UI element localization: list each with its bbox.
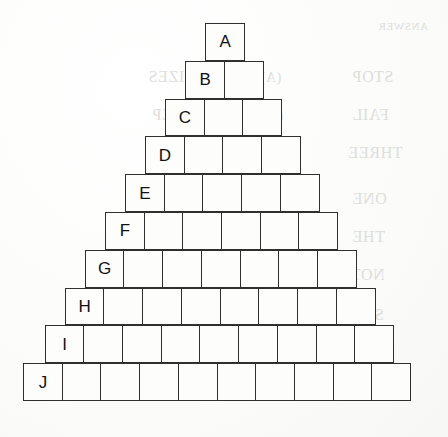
pyramid-block-j-6[interactable] [217,363,257,401]
pyramid-block-e-5[interactable] [280,174,320,212]
pyramid-block-j-9[interactable] [333,363,373,401]
pyramid-block-d-3[interactable] [222,136,262,174]
pyramid-row-h: H [65,288,376,326]
pyramid-row-label: B [199,71,210,88]
pyramid-row-f: F [105,212,339,250]
pyramid-block-d-4[interactable] [261,136,301,174]
pyramid-block-j-2[interactable] [62,363,102,401]
block-pyramid: ABCDEFGHIJ [0,0,448,437]
pyramid-block-h-8[interactable] [336,288,376,326]
pyramid-block-j-10[interactable] [371,363,411,401]
pyramid-row-e: E [125,174,320,212]
pyramid-block-i-8[interactable] [316,325,356,363]
pyramid-block-i-3[interactable] [122,325,162,363]
pyramid-block-g-6[interactable] [278,250,318,288]
pyramid-row-b: B [185,61,264,99]
pyramid-block-h-2[interactable] [103,288,143,326]
pyramid-block-f-4[interactable] [221,212,261,250]
pyramid-block-j-8[interactable] [294,363,334,401]
pyramid-block-g-5[interactable] [240,250,280,288]
pyramid-block-d-labeled[interactable]: D [145,136,185,174]
pyramid-block-i-6[interactable] [238,325,278,363]
pyramid-block-g-2[interactable] [123,250,163,288]
pyramid-block-c-3[interactable] [242,99,282,137]
pyramid-block-a-labeled[interactable]: A [205,23,245,61]
pyramid-block-e-labeled[interactable]: E [125,174,165,212]
pyramid-block-e-3[interactable] [202,174,242,212]
pyramid-block-j-labeled[interactable]: J [23,363,63,401]
pyramid-row-label: E [139,184,150,201]
pyramid-block-h-5[interactable] [220,288,260,326]
pyramid-block-h-labeled[interactable]: H [65,288,105,326]
pyramid-block-j-5[interactable] [178,363,218,401]
pyramid-block-d-2[interactable] [184,136,224,174]
pyramid-block-f-3[interactable] [182,212,222,250]
pyramid-row-label: I [62,335,67,352]
pyramid-block-h-3[interactable] [142,288,182,326]
pyramid-row-label: C [179,108,191,125]
pyramid-row-c: C [165,99,283,137]
pyramid-block-j-7[interactable] [255,363,295,401]
pyramid-block-i-4[interactable] [161,325,201,363]
pyramid-row-i: I [45,325,395,363]
pyramid-block-i-7[interactable] [277,325,317,363]
pyramid-block-f-2[interactable] [144,212,184,250]
pyramid-block-f-5[interactable] [260,212,300,250]
pyramid-block-h-7[interactable] [297,288,337,326]
pyramid-block-f-6[interactable] [298,212,338,250]
pyramid-row-label: F [120,222,130,239]
pyramid-block-b-labeled[interactable]: B [185,61,225,99]
pyramid-block-c-labeled[interactable]: C [165,99,205,137]
pyramid-block-h-6[interactable] [258,288,298,326]
pyramid-block-g-3[interactable] [162,250,202,288]
pyramid-block-i-labeled[interactable]: I [45,325,85,363]
pyramid-row-j: J [23,363,411,401]
pyramid-block-b-2[interactable] [224,61,264,99]
pyramid-block-e-4[interactable] [241,174,281,212]
pyramid-block-g-labeled[interactable]: G [85,250,125,288]
pyramid-block-g-7[interactable] [317,250,357,288]
pyramid-row-label: G [98,260,111,277]
pyramid-block-g-4[interactable] [201,250,241,288]
pyramid-row-label: A [219,33,230,50]
pyramid-block-i-9[interactable] [354,325,394,363]
pyramid-row-a: A [205,23,245,61]
pyramid-row-label: J [39,373,48,390]
pyramid-block-f-labeled[interactable]: F [105,212,145,250]
pyramid-row-g: G [85,250,357,288]
pyramid-row-label: D [159,146,171,163]
pyramid-block-j-4[interactable] [139,363,179,401]
pyramid-block-c-2[interactable] [204,99,244,137]
pyramid-row-d: D [145,136,301,174]
pyramid-block-e-2[interactable] [164,174,204,212]
pyramid-block-i-5[interactable] [199,325,239,363]
pyramid-block-i-2[interactable] [83,325,123,363]
pyramid-block-j-3[interactable] [100,363,140,401]
pyramid-row-label: H [79,297,91,314]
pyramid-block-h-4[interactable] [181,288,221,326]
